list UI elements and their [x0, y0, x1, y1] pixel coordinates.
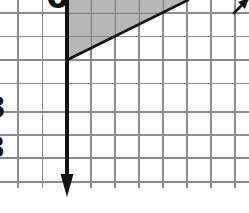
grid-horizontal-lines — [0, 13, 249, 182]
coordinate-grid-figure: 0 8 3 — [0, 0, 249, 213]
grid-plot — [0, 0, 249, 213]
x-axis-arrowhead-fragment — [234, 0, 249, 13]
y-axis-arrowhead — [61, 174, 74, 197]
left-edge-glyph-lower: 3 — [0, 132, 6, 163]
origin-label: 0 — [46, 0, 70, 13]
left-edge-glyph-upper: 8 — [0, 92, 6, 123]
